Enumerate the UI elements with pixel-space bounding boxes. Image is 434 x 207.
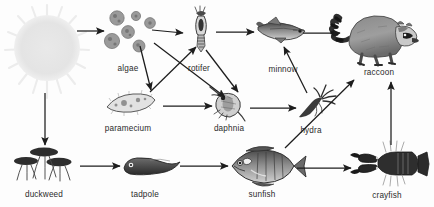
organism-sun	[5, 5, 89, 98]
label-tadpole: tadpole	[131, 190, 159, 199]
label-raccoon: raccoon	[364, 68, 394, 77]
organism-rotifer	[195, 6, 206, 52]
organism-paramecium	[107, 90, 155, 116]
organism-hydra	[299, 85, 336, 117]
organism-duckweed	[14, 148, 72, 181]
arrow-algae-to-rotifer	[152, 30, 183, 33]
label-hydra: hydra	[300, 126, 321, 135]
arrow-algae-to-paramecium	[140, 46, 151, 90]
food-web-canvas	[0, 0, 434, 207]
label-paramecium: paramecium	[105, 124, 152, 133]
organism-daphnia	[210, 87, 245, 121]
organism-algae	[104, 11, 155, 52]
sun-disc	[14, 15, 80, 81]
organism-tadpole	[124, 158, 180, 175]
label-daphnia: daphnia	[214, 124, 244, 133]
label-rotifer: rotifer	[188, 64, 210, 73]
label-sunfish: sunfish	[249, 190, 276, 199]
food-web-diagram: algaerotiferminnowraccoonparameciumdaphn…	[0, 0, 434, 207]
organism-crayfish	[350, 141, 429, 186]
label-duckweed: duckweed	[25, 190, 63, 199]
label-minnow: minnow	[268, 65, 297, 74]
label-crayfish: crayfish	[372, 191, 401, 200]
organism-minnow	[256, 17, 305, 43]
organism-sunfish	[232, 147, 306, 187]
organism-raccoon	[331, 16, 419, 65]
label-algae: algae	[118, 64, 139, 73]
arrow-sunfish-to-raccoon	[285, 80, 354, 148]
